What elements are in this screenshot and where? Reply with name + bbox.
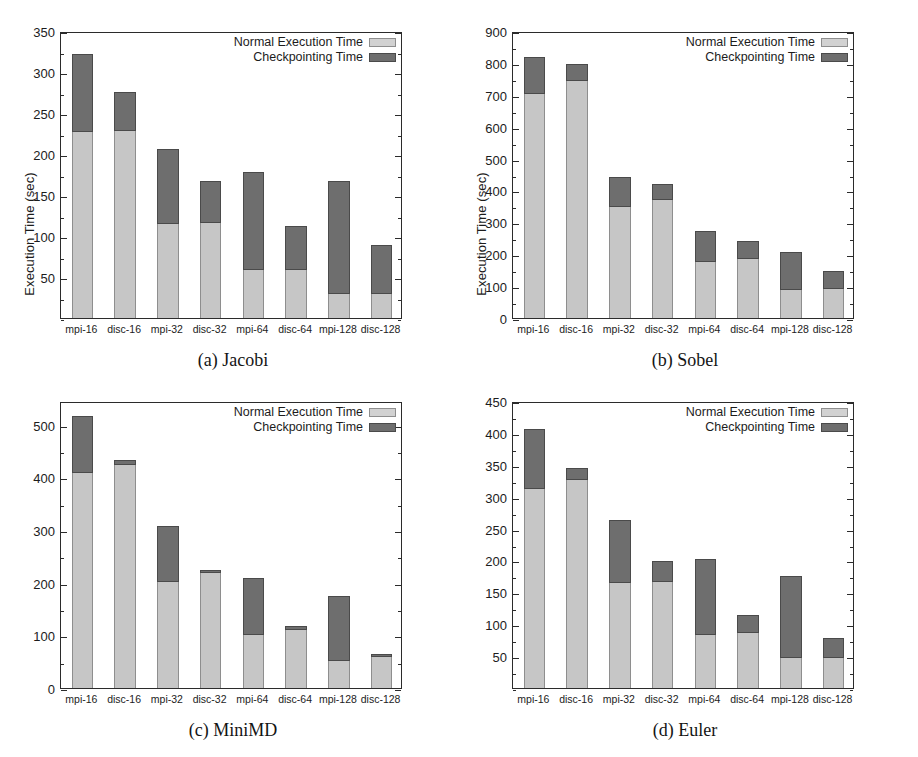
y-axis-tick-mark: [847, 594, 853, 595]
bar-segment-normal-execution-time: [737, 257, 758, 318]
y-axis-tick-mark: [847, 658, 853, 659]
y-axis-minor-tick: [850, 177, 853, 178]
y-axis-tick-mark: [847, 626, 853, 627]
legend-swatch-checkpointing-icon: [369, 423, 396, 432]
y-axis-tick-mark: [395, 479, 401, 480]
bar-segment-checkpointing-time: [823, 271, 844, 289]
bar-mpi-16: [524, 57, 545, 318]
bar-disc-32: [200, 570, 221, 688]
bar-disc-128: [823, 271, 844, 318]
bar-disc-16: [114, 460, 135, 688]
y-axis-minor-tick: [513, 304, 516, 305]
y-axis-tick-mark: [513, 65, 519, 66]
y-axis-tick-mark: [847, 320, 853, 321]
bar-segment-normal-execution-time: [72, 130, 93, 318]
bar-segment-checkpointing-time: [609, 520, 630, 583]
y-axis-minor-tick: [398, 453, 401, 454]
y-axis-tick-label: 100: [485, 618, 507, 633]
y-axis-tick-mark: [847, 97, 853, 98]
bar-segment-checkpointing-time: [780, 252, 801, 289]
bar-segment-checkpointing-time: [823, 638, 844, 658]
chart-area-minimd: Execution Time (sec) 0100200300400500mpi…: [8, 384, 458, 714]
bar-segment-normal-execution-time: [200, 221, 221, 318]
y-axis-tick-mark: [61, 637, 67, 638]
y-axis-tick-mark: [395, 156, 401, 157]
y-axis-tick-label: 200: [33, 576, 55, 591]
bar-segment-normal-execution-time: [72, 471, 93, 688]
bar-mpi-16: [72, 54, 93, 319]
y-axis-minor-tick: [850, 547, 853, 548]
y-axis-tick-label: 400: [485, 426, 507, 441]
y-axis-tick-mark: [847, 499, 853, 500]
chart-legend: Normal Execution TimeCheckpointing Time: [636, 35, 848, 64]
y-axis-minor-tick: [513, 515, 516, 516]
bar-segment-normal-execution-time: [285, 628, 306, 688]
bar-disc-64: [737, 615, 758, 688]
y-axis-minor-tick: [850, 49, 853, 50]
bar-segment-checkpointing-time: [200, 181, 221, 224]
bar-mpi-64: [695, 559, 716, 688]
bar-mpi-64: [695, 231, 716, 318]
y-axis-minor-tick: [398, 218, 401, 219]
y-axis-minor-tick: [61, 453, 64, 454]
legend-item: Normal Execution Time: [234, 35, 396, 49]
bar-segment-checkpointing-time: [652, 184, 673, 200]
legend-label: Checkpointing Time: [253, 50, 363, 64]
y-axis-tick-mark: [513, 467, 519, 468]
y-axis-label: Execution Time (sec): [474, 0, 492, 14]
chart-legend: Normal Execution TimeCheckpointing Time: [184, 405, 396, 434]
y-axis-tick-mark: [513, 435, 519, 436]
legend-item: Normal Execution Time: [234, 405, 396, 419]
bar-segment-checkpointing-time: [114, 92, 135, 131]
legend-swatch-normal-icon: [821, 408, 848, 417]
bar-segment-checkpointing-time: [371, 245, 392, 293]
y-axis-tick-mark: [513, 97, 519, 98]
bar-segment-normal-execution-time: [157, 222, 178, 318]
y-axis-tick-mark: [847, 403, 853, 404]
bar-segment-normal-execution-time: [823, 287, 844, 318]
legend-swatch-checkpointing-icon: [369, 53, 396, 62]
y-axis-minor-tick: [513, 240, 516, 241]
x-axis-tick-label: disc-16: [107, 693, 141, 705]
y-axis-tick-mark: [61, 115, 67, 116]
bar-mpi-16: [524, 429, 545, 688]
y-axis-minor-tick: [850, 240, 853, 241]
bar-disc-64: [285, 626, 306, 688]
x-axis-tick-label: disc-128: [813, 323, 853, 335]
x-axis-tick-label: mpi-128: [319, 693, 357, 705]
bar-segment-checkpointing-time: [72, 416, 93, 472]
bar-disc-32: [200, 181, 221, 318]
x-axis-tick-label: mpi-32: [603, 323, 635, 335]
y-axis-tick-mark: [847, 256, 853, 257]
y-axis-tick-mark: [61, 690, 67, 691]
y-axis-minor-tick: [513, 642, 516, 643]
y-axis-tick-label: 100: [33, 629, 55, 644]
y-axis-minor-tick: [398, 300, 401, 301]
y-axis-tick-mark: [513, 594, 519, 595]
y-axis-tick-mark: [395, 238, 401, 239]
plot-frame-minimd: [60, 402, 402, 689]
y-axis-minor-tick: [850, 81, 853, 82]
y-axis-minor-tick: [61, 259, 64, 260]
bar-segment-checkpointing-time: [157, 149, 178, 224]
x-axis-tick-label: mpi-128: [771, 323, 809, 335]
x-axis-tick-label: mpi-16: [65, 693, 97, 705]
y-axis-minor-tick: [398, 506, 401, 507]
y-axis-minor-tick: [513, 451, 516, 452]
y-axis-tick-label: 300: [33, 524, 55, 539]
y-axis-tick-label: 300: [485, 490, 507, 505]
x-axis-tick-label: disc-32: [193, 323, 227, 335]
y-axis-minor-tick: [398, 259, 401, 260]
legend-label: Checkpointing Time: [705, 50, 815, 64]
y-axis-tick-label: 350: [485, 458, 507, 473]
y-axis-tick-label: 50: [41, 271, 55, 286]
y-axis-label: Execution Time (sec): [474, 84, 492, 384]
bar-segment-normal-execution-time: [114, 463, 135, 688]
y-axis-tick-mark: [513, 626, 519, 627]
bar-disc-16: [114, 92, 135, 318]
bar-segment-checkpointing-time: [114, 460, 135, 465]
x-axis-tick-label: disc-32: [645, 323, 679, 335]
x-axis-tick-label: mpi-32: [151, 693, 183, 705]
legend-item: Checkpointing Time: [253, 420, 396, 434]
bar-segment-checkpointing-time: [72, 54, 93, 133]
